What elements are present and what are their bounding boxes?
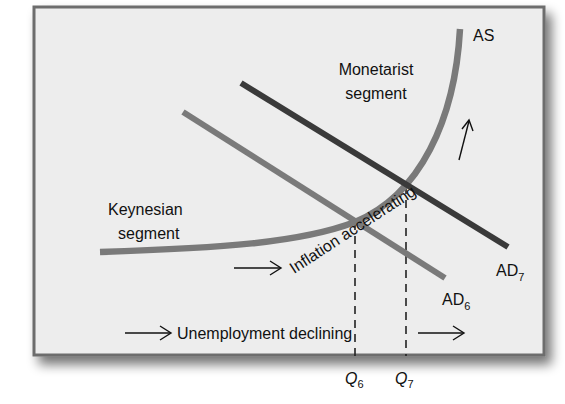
chart: AS Monetarist segment Keynesian segment …	[0, 0, 565, 404]
monetarist-label-line1: Monetarist	[339, 61, 414, 78]
monetarist-label-line2: segment	[345, 85, 407, 102]
q7-tick-label: Q7	[395, 370, 414, 390]
keynesian-label-line2: segment	[118, 225, 180, 242]
as-label: AS	[473, 27, 494, 44]
unemployment-label: Unemployment declining	[177, 325, 352, 342]
keynesian-label-line1: Keynesian	[108, 201, 183, 218]
q6-tick-label: Q6	[345, 370, 364, 390]
